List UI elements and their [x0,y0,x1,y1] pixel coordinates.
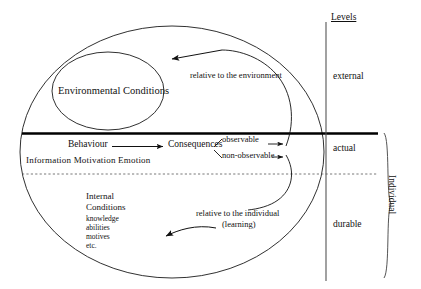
feedback-environment-arrow [172,50,222,59]
level-external-label: external [333,72,364,82]
behaviour-label: Behaviour [68,140,108,150]
determinants-label: Information Motivation Emotion [26,156,151,165]
level-actual-label: actual [333,144,356,154]
branch-nonobservable-line [214,150,222,158]
internal-item-motives: motives [86,233,110,241]
non-observable-label: non-observable [222,151,274,160]
individual-bracket-label: Individual [386,175,396,214]
environmental-conditions-label: Environmental Conditions [58,85,169,96]
feedback-individual-arrow [166,227,216,236]
feedback-environment-label: relative to the environment [190,71,282,80]
outer-ellipse [20,26,324,278]
consequences-label: Consequences [168,140,222,150]
internal-conditions-line1: Internal [86,192,114,201]
feedback-individual-label-line1: relative to the individual [196,209,279,218]
internal-item-etc: etc. [86,242,97,250]
levels-title: Levels [331,13,356,23]
level-durable-label: durable [333,220,362,230]
diagram-canvas: Environmental Conditions Behaviour Conse… [0,0,421,289]
internal-item-knowledge: knowledge [86,215,119,223]
feedback-individual-label-line2: (learning) [222,220,256,229]
internal-item-abilities: abilities [86,224,110,232]
observable-label: observable [222,135,259,144]
internal-conditions-line2: Conditions [86,203,126,212]
feedback-individual-curve [248,155,292,210]
